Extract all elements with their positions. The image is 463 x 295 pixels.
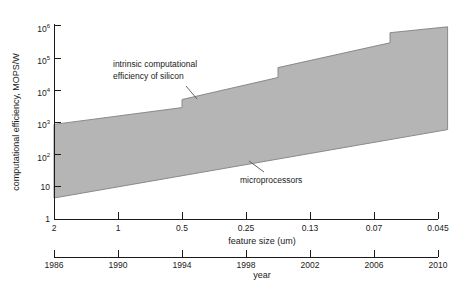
annotation-intrinsic-silicon: intrinsic computational efficiency of si… [113, 59, 197, 82]
y-axis-tick-label: 102 [0, 149, 50, 161]
year-tick-label: 2002 [288, 260, 332, 271]
y-axis-tick-exponent: 2 [47, 152, 50, 158]
y-axis-tick-exponent: 6 [47, 23, 50, 29]
plot-svg [0, 0, 463, 295]
y-axis-tick-label: 10 [0, 181, 50, 193]
year-tick-label: 1994 [160, 260, 204, 271]
year-tick-label: 1998 [224, 260, 268, 271]
x-axis-title-feature-size: feature size (um) [228, 236, 296, 246]
year-tick-label: 1986 [32, 260, 76, 271]
x-axis-title-year: year [253, 270, 271, 280]
y-axis-tick-exponent: 4 [47, 87, 50, 93]
feature-size-tick-label: 2 [32, 223, 76, 234]
annotation-microprocessors: microprocessors [240, 175, 302, 187]
y-axis-tick-label: 104 [0, 84, 50, 96]
y-axis-tick-label: 103 [0, 116, 50, 128]
year-tick-label: 2010 [416, 260, 460, 271]
annotation-intrinsic-line2: efficiency of silicon [113, 71, 197, 83]
feature-size-tick-label: 0.045 [416, 223, 460, 234]
feature-size-tick-label: 0.13 [288, 223, 332, 234]
feature-size-tick-label: 0.07 [352, 223, 396, 234]
efficiency-band [54, 27, 448, 198]
annotation-intrinsic-line1: intrinsic computational [113, 59, 197, 71]
year-tick-label: 1990 [96, 260, 140, 271]
feature-size-tick-label: 1 [96, 223, 140, 234]
y-axis-tick-exponent: 3 [47, 119, 50, 125]
feature-size-tick-label: 0.25 [224, 223, 268, 234]
year-tick-label: 2006 [352, 260, 396, 271]
efficiency-chart: computational efficiency, MOPS/W feature… [0, 0, 463, 295]
y-axis-tick-label: 106 [0, 20, 50, 32]
y-axis-tick-exponent: 5 [47, 55, 50, 61]
y-axis-tick-label: 105 [0, 52, 50, 64]
feature-size-tick-label: 0.5 [160, 223, 204, 234]
